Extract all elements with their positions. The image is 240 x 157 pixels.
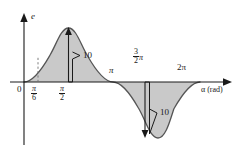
x-axis-arrowhead xyxy=(223,78,232,85)
origin-tick-label: 0 xyxy=(17,85,22,94)
fraction-pi-over-6: π 6 xyxy=(31,85,37,102)
y-axis-arrowhead xyxy=(20,13,27,22)
sine-wave-plot xyxy=(0,0,240,157)
pi-symbol: π xyxy=(139,53,143,62)
tick-label-pi-over-2: π 2 xyxy=(59,85,65,102)
fraction-pi-over-2: π 2 xyxy=(59,85,65,102)
fraction-numerator: π xyxy=(59,85,65,93)
trough-amplitude-arrowhead xyxy=(142,130,149,138)
peak-amplitude-label: 10 xyxy=(83,51,92,60)
tick-label-two-pi: 2π xyxy=(177,63,186,72)
fraction-denominator: 2 xyxy=(59,93,65,102)
tick-label-pi: π xyxy=(109,66,114,75)
x-axis-label: α (rad) xyxy=(201,86,223,94)
waveform-figure: e 0 π 6 π 2 π 3 2 π 2π α (rad) 10 10 xyxy=(0,0,240,157)
trough-amplitude-label: 10 xyxy=(160,108,169,117)
fraction-numerator: π xyxy=(31,85,37,93)
tick-label-pi-over-6: π 6 xyxy=(31,85,37,102)
fraction-denominator: 6 xyxy=(31,93,37,102)
y-axis-label: e xyxy=(31,12,35,21)
tick-label-three-pi-over-2: 3 2 π xyxy=(133,48,143,65)
